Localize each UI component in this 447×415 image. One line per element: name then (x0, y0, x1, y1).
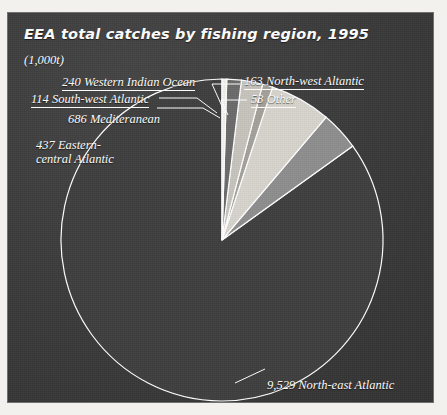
pie-chart (7, 12, 434, 403)
label-mediterranean: 686 Mediteranean (68, 112, 160, 126)
label-western-indian-ocean: 240 Western Indian Ocean (62, 75, 195, 89)
pie-slices (61, 79, 383, 401)
label-north-west-atlantic: 163 North-west Altantic (244, 74, 364, 88)
label-other: 53 Other (251, 92, 296, 106)
label-eastern-central-atlantic-line1: 437 Eastern- (36, 138, 114, 152)
label-south-west-atlantic: 114 South-west Atlantic (31, 92, 149, 106)
label-eastern-central-atlantic: 437 Eastern- central Atlantic (36, 138, 114, 166)
label-eastern-central-atlantic-line2: central Atlantic (36, 152, 114, 166)
chart-panel: EEA total catches by fishing region, 199… (7, 12, 434, 403)
label-north-east-atlantic: 9,529 North-east Atlantic (267, 378, 394, 392)
chart-figure: EEA total catches by fishing region, 199… (0, 0, 447, 415)
